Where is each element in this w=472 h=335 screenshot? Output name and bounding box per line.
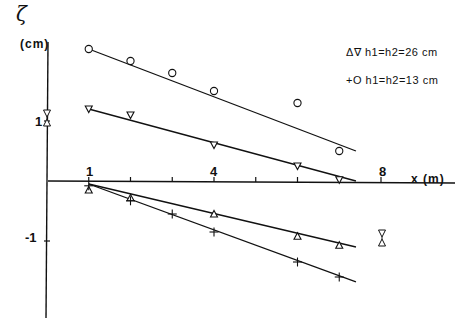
legend-label-26cm: h1=h2=26 cm [365, 46, 438, 58]
data-point-circle [127, 57, 134, 64]
data-point-circle [336, 147, 343, 154]
legend-markers-triangles: Δ∇ [346, 46, 361, 58]
y-tick-label-minus1: -1 [25, 230, 37, 245]
legend-entry-13cm: +O h1=h2=13 cm [346, 74, 438, 86]
error-range-marker [379, 230, 386, 246]
data-point-plus [84, 181, 93, 190]
x-axis [48, 181, 455, 183]
data-point-triangle-down [211, 142, 218, 149]
legend-label-13cm: h1=h2=13 cm [366, 74, 439, 86]
legend-entry-26cm: Δ∇ h1=h2=26 cm [346, 46, 438, 59]
x-tick-label-4: 4 [210, 164, 217, 179]
data-point-circle [85, 45, 92, 52]
data-point-circle [169, 69, 176, 76]
data-point-circle [210, 87, 217, 94]
legend-markers-plus-circle: +O [346, 74, 362, 86]
x-tick-label-8: 8 [379, 164, 386, 179]
data-point-plus [168, 210, 177, 219]
data-point-triangle-down [127, 112, 134, 119]
y-tick-label-1: 1 [35, 114, 42, 129]
fit-line [89, 109, 356, 181]
fit-line [89, 184, 356, 247]
x-axis-label: x (m) [411, 172, 445, 186]
data-point-circle [294, 99, 301, 106]
y-axis-symbol: ζ [16, 2, 27, 26]
x-tick-label-1: 1 [86, 164, 93, 179]
y-axis [46, 42, 48, 318]
y-axis-unit: (cm) [20, 37, 49, 51]
error-range-marker [44, 110, 51, 126]
